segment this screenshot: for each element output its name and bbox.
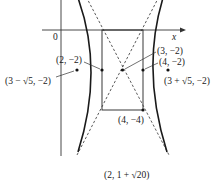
vertex-right-label: (4, −2)	[159, 57, 185, 68]
origin-label: 0	[53, 32, 58, 42]
center-dot	[121, 68, 124, 71]
hyperbola-left-branch	[78, 0, 91, 152]
vertex-right-dot	[141, 68, 144, 71]
leader-focus-left	[56, 71, 74, 77]
box-corner-label: (4, −4)	[118, 115, 144, 126]
vertex-left-dot	[100, 68, 103, 71]
center-label: (3, −2)	[157, 46, 183, 57]
focus-left-label: (3 − √5, −2)	[5, 76, 51, 87]
box-corner-dot	[141, 108, 144, 111]
x-axis-label: x	[171, 32, 177, 42]
focus-right-label: (3 + √5, −2)	[164, 76, 210, 87]
leader-vertex-left	[84, 62, 100, 69]
vertex-left-label: (2, −2)	[56, 55, 82, 66]
x-axis-arrow-icon	[180, 28, 186, 33]
caption: (2, 1 + √20)	[104, 170, 149, 180]
leader-vertex-right	[145, 63, 158, 69]
hyperbola-diagram: 0 x (2, −2) (3, −2) (4, −2) (3 − √5, −2)…	[0, 0, 217, 180]
asymptote-1	[80, 0, 169, 155]
focus-left-dot	[75, 68, 78, 71]
focus-right-dot	[166, 68, 169, 71]
